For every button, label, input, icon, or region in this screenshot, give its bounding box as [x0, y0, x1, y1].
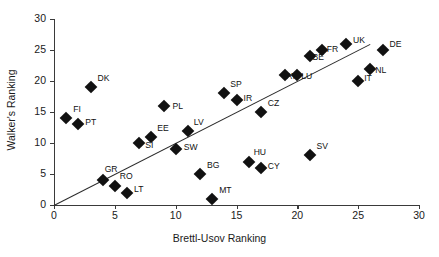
data-point-label-lu: LU — [301, 72, 312, 81]
data-point-label-fr: FR — [327, 45, 338, 54]
x-axis-title: Brettl-Usov Ranking — [0, 232, 439, 244]
data-point-label-bg: BG — [207, 161, 219, 170]
data-point-label-sv: SV — [317, 142, 328, 151]
data-point-label-hu: HU — [254, 148, 266, 157]
x-tick-label-10: 10 — [163, 210, 189, 221]
data-point-fi — [60, 112, 73, 125]
data-point-pl — [157, 99, 170, 112]
data-point-lt — [121, 186, 134, 199]
y-tick-label-30: 30 — [24, 13, 46, 24]
y-tick-label-10: 10 — [24, 137, 46, 148]
plot-area: FIPTDKGRROLTSIEEPLSWLVBGMTSPIRHUCYCZATLU… — [54, 19, 419, 205]
x-tick-label-25: 25 — [345, 210, 371, 221]
data-point-si — [133, 137, 146, 150]
y-tick-label-15: 15 — [24, 106, 46, 117]
x-tick-label-20: 20 — [284, 210, 310, 221]
x-tick-label-15: 15 — [224, 210, 250, 221]
scatter-chart: 051015202530 051015202530 FIPTDKGRROLTSI… — [0, 0, 439, 257]
data-point-label-cy: CY — [268, 162, 280, 171]
data-point-ro — [108, 180, 121, 193]
x-tick-label-5: 5 — [102, 210, 128, 221]
data-point-label-nl: NL — [375, 66, 386, 75]
data-point-label-gr: GR — [105, 165, 118, 174]
data-point-bg — [194, 168, 207, 181]
data-point-cz — [254, 106, 267, 119]
data-point-pt — [72, 118, 85, 131]
data-point-cy — [254, 161, 267, 174]
data-point-label-ro: RO — [120, 172, 133, 181]
y-tick-label-25: 25 — [24, 44, 46, 55]
y-tick-label-0: 0 — [24, 199, 46, 210]
data-point-ir — [230, 93, 243, 106]
data-point-label-dk: DK — [98, 74, 110, 83]
data-point-hu — [242, 155, 255, 168]
data-point-label-pt: PT — [85, 118, 96, 127]
y-tick-label-20: 20 — [24, 75, 46, 86]
x-tick-label-30: 30 — [406, 210, 432, 221]
x-tick-label-0: 0 — [41, 210, 67, 221]
data-point-label-uk: UK — [353, 36, 365, 45]
data-point-dk — [84, 81, 97, 94]
data-point-uk — [340, 37, 353, 50]
data-point-label-fi: FI — [73, 105, 81, 114]
data-point-sp — [218, 87, 231, 100]
data-point-label-sp: SP — [230, 80, 241, 89]
data-point-de — [376, 44, 389, 57]
data-point-label-mt: MT — [219, 186, 231, 195]
data-point-label-sw: SW — [184, 143, 198, 152]
data-point-label-de: DE — [390, 40, 402, 49]
data-point-label-pl: PL — [173, 102, 184, 111]
data-point-mt — [206, 192, 219, 205]
data-point-label-it: IT — [364, 74, 372, 83]
data-point-label-ir: IR — [244, 94, 253, 103]
data-point-it — [352, 75, 365, 88]
data-point-label-ee: EE — [157, 124, 168, 133]
data-point-sv — [303, 149, 316, 162]
y-axis-title: Walker's Ranking — [5, 50, 17, 170]
y-tick-label-5: 5 — [24, 168, 46, 179]
data-point-label-cz: CZ — [268, 99, 279, 108]
data-point-label-lt: LT — [134, 185, 143, 194]
data-point-label-lv: LV — [194, 118, 204, 127]
data-point-gr — [96, 174, 109, 187]
